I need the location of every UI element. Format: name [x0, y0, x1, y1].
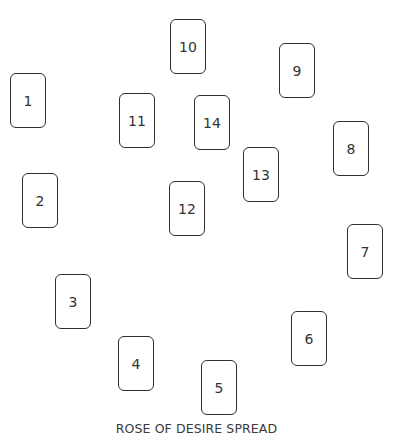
card-number: 1: [24, 93, 33, 109]
card-position-11: 11: [119, 93, 155, 148]
card-number: 14: [203, 115, 221, 131]
card-position-14: 14: [194, 95, 230, 150]
card-position-3: 3: [55, 274, 91, 329]
card-number: 5: [215, 380, 224, 396]
card-number: 10: [179, 39, 197, 55]
card-position-13: 13: [243, 147, 279, 202]
card-number: 11: [128, 113, 146, 129]
card-position-8: 8: [333, 121, 369, 176]
card-number: 8: [347, 141, 356, 157]
card-position-12: 12: [169, 181, 205, 236]
card-number: 2: [36, 193, 45, 209]
card-position-6: 6: [291, 311, 327, 366]
card-position-10: 10: [170, 19, 206, 74]
spread-title: ROSE OF DESIRE SPREAD: [0, 421, 393, 436]
card-number: 9: [293, 63, 302, 79]
card-number: 7: [361, 244, 370, 260]
card-position-9: 9: [279, 43, 315, 98]
card-position-7: 7: [347, 224, 383, 279]
card-position-1: 1: [10, 73, 46, 128]
card-position-4: 4: [118, 336, 154, 391]
card-number: 4: [132, 356, 141, 372]
card-number: 6: [305, 331, 314, 347]
card-number: 3: [69, 294, 78, 310]
card-position-2: 2: [22, 173, 58, 228]
card-position-5: 5: [201, 360, 237, 415]
card-number: 13: [252, 167, 270, 183]
card-number: 12: [178, 201, 196, 217]
